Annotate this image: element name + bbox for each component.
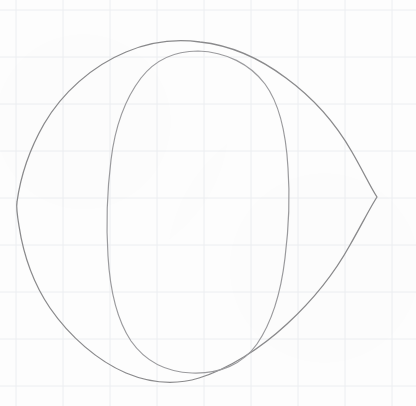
sketch-canvas xyxy=(0,0,416,406)
inner-contour-path xyxy=(107,51,289,373)
pencil-drawing xyxy=(0,0,416,406)
outer-contour-path xyxy=(17,41,377,382)
